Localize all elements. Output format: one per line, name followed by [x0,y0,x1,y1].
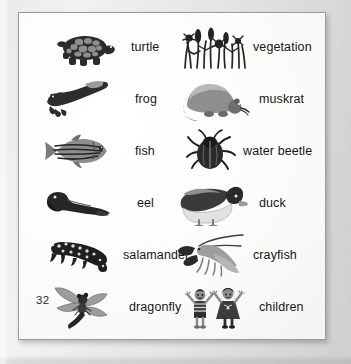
page-frame: turtle [18,12,326,340]
page-surface: turtle [19,13,325,339]
glossary-label: eel [113,197,154,210]
turtle-illustration [49,24,121,70]
glossary-label: crayfish [247,249,297,262]
duck-illustration [173,180,249,226]
glossary-entry-fish: fish [19,125,169,177]
salamander-illustration [43,232,115,278]
crayfish-illustration [173,232,247,278]
glossary-entry-vegetation: vegetation [169,21,326,73]
page-number: 32 [36,294,49,306]
glossary-entry-crayfish: crayfish [169,229,326,281]
glossary-entry-duck: duck [169,177,326,229]
glossary-label: turtle [121,41,159,54]
water-beetle-illustration [185,128,241,174]
glossary-entry-children: children [169,281,326,333]
glossary-label: frog [113,93,157,106]
glossary-entry-eel: eel [19,177,169,229]
frog-illustration [41,76,113,122]
glossary-label: duck [249,197,286,210]
glossary-entry-turtle: turtle [19,21,169,73]
glossary-entry-frog: frog [19,73,169,125]
glossary-entry-muskrat: muskrat [169,73,326,125]
scanned-page-background: turtle [0,0,351,364]
glossary-label: muskrat [251,93,304,106]
glossary-label: children [247,301,304,314]
eel-illustration [41,180,113,226]
dragonfly-illustration [45,284,117,330]
vegetation-illustration [177,24,251,70]
glossary-label: vegetation [251,41,312,54]
muskrat-illustration [179,76,251,122]
glossary-label: water beetle [241,145,312,158]
glossary-entry-dragonfly: dragonfly [19,281,169,333]
picture-glossary-grid: turtle [19,21,325,333]
glossary-entry-salamander: salamander [19,229,169,281]
children-illustration [185,284,247,330]
glossary-label: fish [113,145,155,158]
fish-illustration [41,128,113,174]
glossary-entry-water-beetle: water beetle [169,125,326,177]
